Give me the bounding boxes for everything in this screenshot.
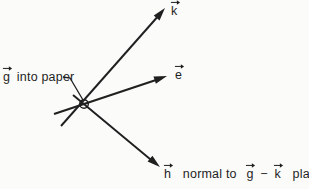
h-letter: h bbox=[164, 167, 171, 181]
vector-diagram-canvas bbox=[0, 0, 309, 189]
vector-diagram: k e g into paper h bbox=[0, 0, 309, 189]
vector-overarrow-icon bbox=[170, 0, 181, 5]
k-vector-symbol: k bbox=[274, 167, 280, 181]
h-normal-to-text: normal to bbox=[183, 167, 237, 181]
k-letter: k bbox=[171, 4, 177, 18]
g-into-paper-text: into paper bbox=[17, 70, 75, 84]
h-vector-symbol: h bbox=[164, 167, 171, 181]
vector-overarrow-icon bbox=[163, 161, 174, 168]
vector-overarrow-icon bbox=[273, 161, 284, 168]
g-letter: g bbox=[246, 167, 253, 181]
minus-sign: − bbox=[260, 167, 268, 181]
h-normal-label: h normal to g − k plane bbox=[164, 167, 309, 181]
k-vector-symbol: k bbox=[171, 4, 177, 18]
vector-overarrow-icon bbox=[174, 62, 185, 69]
g-vector-symbol: g bbox=[246, 167, 253, 181]
k-vector-label: k bbox=[171, 4, 177, 18]
e-vector-symbol: e bbox=[175, 68, 182, 82]
plane-text: plane bbox=[293, 167, 309, 181]
vector-overarrow-icon bbox=[2, 64, 13, 71]
h-vector-arrow bbox=[73, 95, 162, 170]
g-vector-symbol: g bbox=[3, 70, 10, 84]
g-into-paper-label: g into paper bbox=[3, 70, 74, 84]
k-vector-arrow bbox=[61, 6, 168, 126]
e-letter: e bbox=[175, 68, 182, 82]
k-letter: k bbox=[274, 167, 280, 181]
e-vector-label: e bbox=[175, 68, 182, 82]
vector-overarrow-icon bbox=[245, 161, 256, 168]
g-letter: g bbox=[3, 70, 10, 84]
